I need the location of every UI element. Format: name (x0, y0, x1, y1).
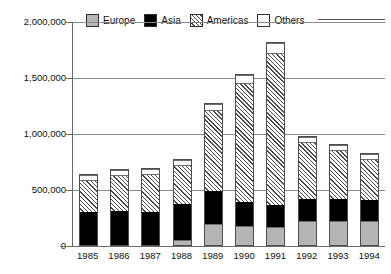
x-axis-tick-label: 1992 (292, 250, 322, 261)
x-axis-tick-label: 1993 (323, 250, 353, 261)
y-axis-tick-label: 500,000 (32, 185, 66, 195)
bar-segment-asia[interactable] (361, 200, 378, 221)
bar-segment-asia[interactable] (267, 205, 284, 228)
bar-segment-americas[interactable] (111, 175, 128, 211)
bar-segment-asia[interactable] (236, 202, 253, 226)
bar-segment-americas[interactable] (267, 53, 284, 204)
bar-segment-europe[interactable] (236, 226, 253, 245)
bar-segment-americas[interactable] (236, 83, 253, 203)
legend-rule-line (318, 19, 385, 20)
bar-segment-europe[interactable] (299, 221, 316, 245)
y-axis-tick-label: 1,000,000 (24, 129, 66, 139)
bar-segment-others[interactable] (267, 43, 284, 53)
stacked-bar[interactable] (298, 136, 317, 246)
stacked-bar[interactable] (360, 153, 379, 246)
bar-segment-europe[interactable] (267, 227, 284, 245)
bar-segment-asia[interactable] (299, 199, 316, 222)
bar-segment-asia[interactable] (174, 204, 191, 240)
bar-segment-asia[interactable] (111, 211, 128, 245)
bar-segment-asia[interactable] (330, 199, 347, 222)
bar-segment-americas[interactable] (174, 165, 191, 204)
stacked-bar[interactable] (235, 74, 254, 246)
bar-segment-americas[interactable] (80, 180, 97, 213)
x-axis-tick-label: 1987 (135, 250, 165, 261)
y-axis-labels: 0500,0001,000,0001,500,0002,000,000 (0, 0, 66, 274)
bar-segment-asia[interactable] (142, 212, 159, 245)
x-axis-tick-label: 1990 (229, 250, 259, 261)
stacked-bar[interactable] (266, 42, 285, 246)
x-axis-tick-label: 1985 (73, 250, 103, 261)
bar-segment-americas[interactable] (205, 110, 222, 191)
x-axis-labels: 1985198619871988198919901991199219931994 (72, 250, 385, 266)
bar-segment-europe[interactable] (205, 224, 222, 245)
stacked-bar-chart: EuropeAsiaAmericasOthers 0500,0001,000,0… (0, 0, 391, 274)
x-axis-line (60, 246, 385, 247)
bar-segment-americas[interactable] (142, 174, 159, 212)
bar-segment-europe[interactable] (330, 221, 347, 245)
stacked-bar[interactable] (79, 174, 98, 246)
bar-series-container (72, 22, 385, 246)
stacked-bar[interactable] (141, 168, 160, 246)
x-axis-tick-label: 1994 (354, 250, 384, 261)
stacked-bar[interactable] (110, 169, 129, 246)
y-axis-tick-label: 1,500,000 (24, 73, 66, 83)
stacked-bar[interactable] (329, 144, 348, 246)
x-axis-tick-label: 1989 (198, 250, 228, 261)
x-axis-tick-label: 1991 (260, 250, 290, 261)
bar-segment-americas[interactable] (299, 142, 316, 199)
bar-segment-americas[interactable] (361, 159, 378, 200)
bar-segment-americas[interactable] (330, 150, 347, 199)
x-axis-tick-label: 1986 (104, 250, 134, 261)
bar-segment-europe[interactable] (361, 221, 378, 245)
y-axis-tick-label: 2,000,000 (24, 17, 66, 27)
x-axis-tick-label: 1988 (167, 250, 197, 261)
bar-segment-asia[interactable] (80, 212, 97, 245)
bar-segment-others[interactable] (236, 75, 253, 83)
bar-segment-europe[interactable] (174, 240, 191, 245)
bar-segment-asia[interactable] (205, 191, 222, 224)
stacked-bar[interactable] (204, 103, 223, 246)
stacked-bar[interactable] (173, 159, 192, 246)
